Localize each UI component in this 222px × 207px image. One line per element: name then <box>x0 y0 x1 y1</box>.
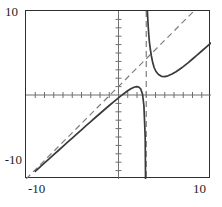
plot-frame <box>25 10 210 178</box>
y-axis-max-label: 10 <box>5 5 18 18</box>
plot-canvas <box>26 11 211 179</box>
x-axis-max-label: 10 <box>193 182 206 195</box>
y-axis-min-label: -10 <box>5 153 22 166</box>
x-axis-min-label: -10 <box>28 182 45 195</box>
curve-right-branch <box>147 11 211 77</box>
curve-left-branch <box>35 87 146 179</box>
figure-root: 10 -10 -10 10 <box>0 0 222 207</box>
